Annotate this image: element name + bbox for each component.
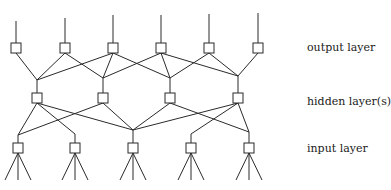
output-node bbox=[11, 43, 21, 53]
output-node bbox=[60, 43, 70, 53]
hidden-input-edge bbox=[18, 103, 37, 135]
input-node bbox=[70, 143, 80, 153]
output-node bbox=[156, 43, 166, 53]
input-node bbox=[244, 143, 254, 153]
input-fan-edge bbox=[62, 153, 75, 180]
output-hidden-edge bbox=[238, 53, 258, 76]
input-node bbox=[186, 143, 196, 153]
output-hidden-edge bbox=[209, 53, 238, 76]
input-fan-edge bbox=[18, 153, 31, 180]
hidden-input-edge bbox=[191, 103, 238, 134]
neural-network-diagram bbox=[0, 0, 300, 190]
output-hidden-edge bbox=[37, 53, 113, 80]
input-node bbox=[13, 143, 23, 153]
output-node bbox=[253, 43, 263, 53]
output-layer-label: output layer bbox=[307, 41, 375, 54]
hidden-input-edge bbox=[133, 103, 170, 130]
hidden-node bbox=[165, 93, 175, 103]
input-fan-edge bbox=[249, 153, 262, 180]
output-node bbox=[204, 43, 214, 53]
input-fan-edge bbox=[120, 153, 133, 180]
input-fan-edge bbox=[236, 153, 249, 180]
output-hidden-edge bbox=[65, 53, 103, 78]
connection-edges bbox=[5, 13, 262, 180]
output-hidden-edge bbox=[16, 53, 37, 80]
hidden-layer-label: hidden layer(s) bbox=[307, 95, 391, 108]
hidden-node bbox=[98, 93, 108, 103]
layer-nodes bbox=[11, 43, 263, 153]
output-hidden-edge bbox=[161, 53, 238, 76]
hidden-input-edge bbox=[238, 103, 249, 132]
output-hidden-edge bbox=[37, 53, 65, 80]
input-fan-edge bbox=[178, 153, 191, 180]
output-hidden-edge bbox=[113, 53, 170, 78]
input-fan-edge bbox=[5, 153, 18, 180]
hidden-input-edge bbox=[18, 103, 103, 135]
hidden-input-edge bbox=[37, 103, 75, 134]
hidden-node bbox=[233, 93, 243, 103]
input-node bbox=[128, 143, 138, 153]
input-layer-label: input layer bbox=[307, 142, 368, 155]
input-fan-edge bbox=[133, 153, 146, 180]
hidden-node bbox=[32, 93, 42, 103]
output-node bbox=[108, 43, 118, 53]
input-fan-edge bbox=[191, 153, 204, 180]
input-fan-edge bbox=[75, 153, 88, 180]
hidden-input-edge bbox=[133, 103, 238, 130]
